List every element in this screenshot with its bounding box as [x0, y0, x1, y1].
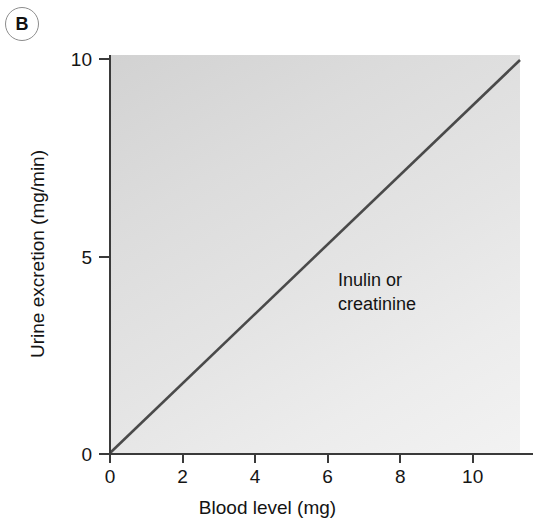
x-tick-2: [182, 453, 184, 463]
y-axis-line: [109, 55, 111, 455]
x-axis-title: Blood level (mg): [0, 497, 535, 519]
y-ticklabel-0: 0: [81, 445, 92, 464]
series-annotation-line-1: Inulin or: [338, 268, 416, 292]
y-tick-0: [99, 453, 109, 455]
x-tick-6: [327, 453, 329, 463]
panel-label-text: B: [16, 15, 29, 33]
y-axis-title: Urine excretion (mg/min): [26, 55, 50, 453]
chart-line-layer: [110, 55, 520, 453]
x-ticklabel-4: 4: [250, 467, 261, 486]
panel-label-badge: B: [5, 7, 39, 41]
x-ticklabel-2: 2: [177, 467, 188, 486]
y-tick-10: [99, 58, 109, 60]
series-line-inulin-creatinine: [110, 60, 520, 453]
y-ticklabel-5: 5: [81, 248, 92, 267]
x-ticklabel-10: 10: [462, 467, 483, 486]
series-annotation-line-2: creatinine: [338, 292, 416, 316]
x-ticklabel-6: 6: [322, 467, 333, 486]
y-tick-5: [99, 256, 109, 258]
series-annotation-inulin-creatinine: Inulin or creatinine: [338, 268, 416, 316]
y-ticklabel-10: 10: [71, 50, 92, 69]
x-ticklabel-8: 8: [395, 467, 406, 486]
x-tick-8: [399, 453, 401, 463]
x-tick-0: [109, 453, 111, 463]
x-axis-line: [109, 453, 533, 455]
x-ticklabel-0: 0: [105, 467, 116, 486]
x-tick-4: [254, 453, 256, 463]
chart-plot-area: 0 2 4 6 8 10 0 5 10 Inulin or creatinine: [110, 55, 520, 453]
x-tick-10: [472, 453, 474, 463]
